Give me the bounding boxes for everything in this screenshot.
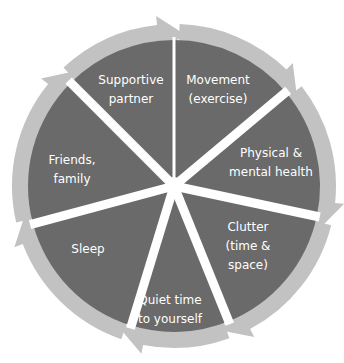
- label-line: Quiet time: [138, 291, 202, 310]
- segment-label-supportive-partner: Supportive partner: [98, 71, 163, 109]
- segment-label-physical-mental-health: Physical & mental health: [229, 144, 313, 182]
- segment-label-quiet-time: Quiet time to yourself: [138, 291, 202, 329]
- label-line: Supportive: [98, 71, 163, 90]
- label-line: mental health: [229, 163, 313, 182]
- label-line: family: [49, 170, 96, 189]
- segment-label-clutter: Clutter (time & space): [226, 218, 271, 275]
- segment-label-sleep: Sleep: [71, 240, 104, 259]
- label-line: (exercise): [186, 90, 250, 109]
- label-line: Friends,: [49, 151, 96, 170]
- label-line: (time &: [226, 237, 271, 256]
- label-line: Physical &: [229, 144, 313, 163]
- label-line: Sleep: [71, 240, 104, 259]
- center-hub: [165, 177, 183, 195]
- segment-label-friends-family: Friends, family: [49, 151, 96, 189]
- label-line: space): [226, 256, 271, 275]
- label-line: to yourself: [138, 310, 202, 329]
- segment-label-movement: Movement (exercise): [186, 71, 250, 109]
- label-line: Clutter: [226, 218, 271, 237]
- label-line: Movement: [186, 71, 250, 90]
- label-line: partner: [98, 90, 163, 109]
